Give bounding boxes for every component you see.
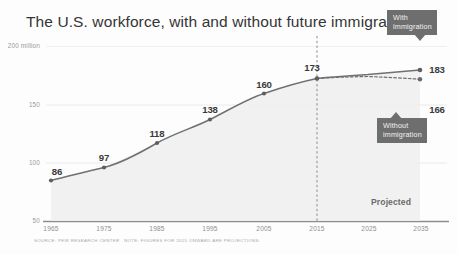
data-point-2035-with [418,68,423,73]
data-label-1995: 138 [202,104,218,115]
x-tick-2025: 2025 [361,225,376,232]
data-label-2005: 160 [256,79,272,90]
data-label-2015: 173 [304,62,320,73]
data-point-1995 [208,117,212,121]
callout-with-line2: immigration [393,22,432,31]
x-tick-2005: 2005 [256,225,271,232]
source-credit: SOURCE: PEW RESEARCH CENTER [34,238,120,243]
data-point-2015 [315,76,320,81]
data-point-1985 [155,141,159,145]
y-tick-150: 150 [6,101,40,108]
data-label-2035-without: 166 [429,104,445,115]
data-point-1965 [49,178,53,182]
y-tick-200: 200 million [6,42,40,49]
x-tick-2035: 2035 [413,225,428,232]
callout-with-immigration[interactable]: With immigration [387,10,437,35]
x-tick-1985: 1985 [149,225,164,232]
data-label-1985: 118 [149,128,164,139]
data-label-2035-with: 183 [429,64,445,75]
callout-pointer-down [414,34,426,41]
data-label-1965: 86 [52,166,62,177]
y-tick-50: 50 [6,217,40,224]
area-fill-with-immigration [51,70,420,221]
callout-pointer-up [390,112,402,119]
data-point-1975 [102,165,106,169]
chart-card: The U.S. workforce, with and without fut… [0,0,457,254]
data-label-1975: 97 [99,152,109,163]
data-point-2005 [262,91,266,95]
figure-note: NOTE: FIGURES FOR 2015 ONWARD ARE PROJEC… [124,238,260,243]
data-point-2035-without [418,77,422,81]
x-tick-2015: 2015 [309,225,324,232]
y-tick-100: 100 [6,159,40,166]
x-tick-1965: 1965 [43,225,58,232]
callout-without-line2: immigration [383,130,422,139]
projected-annotation: Projected [371,197,411,207]
callout-without-immigration[interactable]: Without immigration [377,118,427,143]
x-tick-1995: 1995 [202,225,217,232]
x-tick-1975: 1975 [96,225,111,232]
